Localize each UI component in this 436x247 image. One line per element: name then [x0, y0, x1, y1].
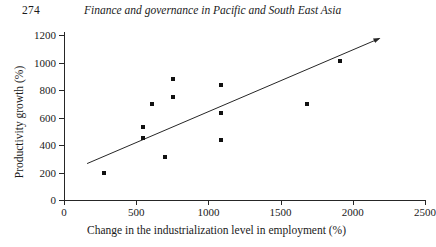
data-point: [171, 77, 175, 81]
data-point: [163, 155, 167, 159]
running-head-title: Finance and governance in Pacific and So…: [84, 4, 341, 16]
data-point: [150, 102, 154, 106]
plot-area: 020040060080010001200 050010001500200025…: [0, 22, 433, 222]
y-axis-title: Productivity growth (%): [13, 37, 25, 207]
data-point: [171, 95, 175, 99]
scatter-chart-figure: 020040060080010001200 050010001500200025…: [0, 22, 433, 247]
data-point: [102, 171, 106, 175]
data-point: [219, 83, 223, 87]
data-point: [219, 111, 223, 115]
data-point: [141, 136, 145, 140]
data-point: [305, 102, 309, 106]
x-axis-title: Change in the industrialization level in…: [0, 224, 433, 236]
data-point: [338, 59, 342, 63]
data-point: [141, 125, 145, 129]
data-point: [219, 138, 223, 142]
running-head: 274 Finance and governance in Pacific an…: [0, 4, 433, 20]
trendline: [0, 22, 433, 222]
page-number: 274: [22, 4, 40, 16]
